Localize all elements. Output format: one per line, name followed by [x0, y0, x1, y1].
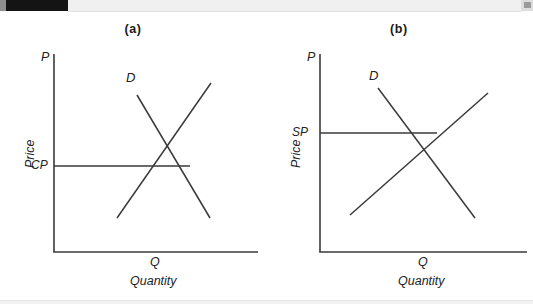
scan-dark-block	[6, 0, 68, 11]
panel-b-y-axis-symbol: P	[307, 50, 315, 64]
panel-a-x-axis-symbol: Q	[150, 255, 160, 269]
panel-b-demand-label: D	[369, 68, 378, 83]
scan-edge-right-tick	[524, 2, 531, 8]
panel-b-x-axis-label: Quantity	[398, 274, 445, 288]
panel-a-demand-label: D	[126, 70, 135, 85]
panel-b: (b) P Price SP D Q Quantity	[266, 12, 532, 300]
panel-b-supply-curve	[350, 93, 488, 215]
panel-b-plot	[266, 12, 532, 300]
figure-page: (a) P Price CP D Q Quantity (b)	[0, 0, 533, 304]
panel-a: (a) P Price CP D Q Quantity	[0, 12, 266, 300]
panel-a-demand-curve	[137, 95, 210, 218]
panel-a-supply-curve	[117, 83, 211, 218]
panel-a-plot	[0, 12, 266, 300]
panel-b-x-axis-symbol: Q	[418, 255, 428, 269]
panel-b-y-axis-label: Price	[289, 140, 303, 168]
scan-artifact-strip	[0, 0, 533, 12]
panel-a-y-axis-symbol: P	[41, 50, 49, 64]
scan-bottom-edge	[0, 300, 533, 304]
scan-paper-band	[68, 0, 521, 12]
panel-b-price-tick-label: SP	[292, 125, 308, 139]
panel-b-demand-curve	[378, 88, 475, 218]
panel-a-x-axis-label: Quantity	[130, 274, 177, 288]
panel-a-price-tick-label: CP	[31, 158, 48, 172]
